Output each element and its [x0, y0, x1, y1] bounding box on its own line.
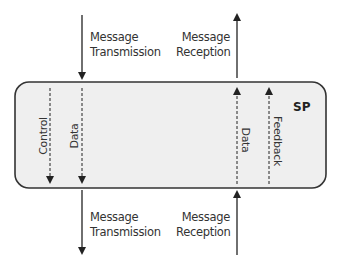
label-line: Reception [176, 225, 230, 240]
data-up-label: Data [239, 127, 252, 152]
label-line: Message [176, 30, 230, 45]
diagram-canvas [0, 0, 337, 268]
bottom-transmission-label: Message Transmission [90, 210, 161, 240]
label-line: Transmission [90, 225, 161, 240]
bottom-reception-label: Message Reception [176, 210, 230, 240]
top-transmission-label: Message Transmission [90, 30, 161, 60]
label-line: Message [90, 210, 161, 225]
label-line: Transmission [90, 45, 161, 60]
label-line: Reception [176, 45, 230, 60]
label-line: Message [90, 30, 161, 45]
data-down-label: Data [68, 123, 81, 148]
feedback-label: Feedback [271, 116, 284, 166]
top-reception-label: Message Reception [176, 30, 230, 60]
sp-label: SP [293, 100, 310, 114]
label-line: Message [176, 210, 230, 225]
control-label: Control [37, 117, 50, 155]
